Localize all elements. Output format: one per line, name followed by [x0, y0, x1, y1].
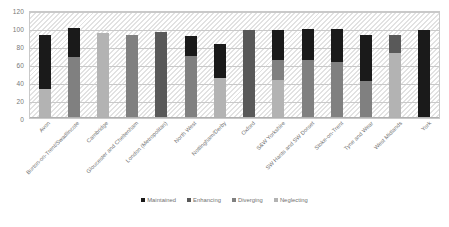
legend-label: Neglecting: [280, 197, 308, 203]
x-axis-label: SW Hants and SW Dorset: [264, 120, 315, 171]
x-axis-label: S&W Yorkshire: [255, 120, 286, 151]
bar-stack: [389, 35, 401, 118]
stacked-bar-chart: 020406080100120 AvonBurton-on-Trent/Swad…: [0, 0, 449, 227]
bar-stack: [39, 35, 51, 118]
bar-segment-maintained: [360, 35, 372, 81]
bar-column[interactable]: [59, 12, 88, 118]
bar-stack: [126, 35, 138, 118]
legend-label: Maintained: [147, 197, 176, 203]
bar-segment-maintained: [418, 30, 430, 118]
bar-segment-diverging: [272, 60, 284, 81]
bar-segment-maintained: [68, 28, 80, 57]
bar-column[interactable]: [351, 12, 380, 118]
bar-series-group: [30, 12, 439, 118]
bar-column[interactable]: [88, 12, 117, 118]
x-axis-label: North West: [173, 120, 197, 144]
x-axis-label: York: [420, 120, 432, 132]
legend-label: Enhancing: [193, 197, 221, 203]
bar-segment-maintained: [272, 30, 284, 60]
legend-item[interactable]: Maintained: [141, 197, 176, 203]
legend-swatch-icon: [274, 198, 278, 202]
x-axis: AvonBurton-on-Trent/SwadlincoteCambridge…: [29, 120, 440, 182]
chart-legend: MaintainedEnhancingDivergingNeglecting: [0, 197, 449, 203]
bar-segment-diverging: [126, 35, 138, 118]
x-axis-label: Tyne and Wear: [342, 120, 373, 151]
bar-stack: [302, 29, 314, 118]
legend-swatch-icon: [232, 198, 236, 202]
bar-segment-enhancing: [155, 32, 167, 118]
legend-item[interactable]: Diverging: [232, 197, 263, 203]
bar-column[interactable]: [176, 12, 205, 118]
plot-area: [29, 11, 440, 119]
y-axis-tick: 40: [17, 80, 24, 87]
bar-stack: [418, 30, 430, 118]
bar-stack: [243, 30, 255, 118]
bar-segment-maintained: [331, 29, 343, 62]
bar-column[interactable]: [264, 12, 293, 118]
bar-column[interactable]: [293, 12, 322, 118]
bar-stack: [155, 32, 167, 118]
bar-segment-maintained: [302, 29, 314, 61]
bar-stack: [185, 36, 197, 118]
bar-stack: [214, 44, 226, 118]
legend-swatch-icon: [187, 198, 191, 202]
bar-segment-enhancing: [243, 30, 255, 118]
legend-item[interactable]: Neglecting: [274, 197, 308, 203]
y-axis: 020406080100120: [0, 11, 27, 119]
bar-segment-neglecting: [214, 78, 226, 119]
x-axis-label: Gloucester and Cheltenham: [85, 120, 139, 174]
bar-segment-maintained: [39, 35, 51, 89]
bar-segment-neglecting: [97, 33, 109, 119]
x-axis-label: Avon: [38, 120, 51, 133]
bar-segment-diverging: [360, 81, 372, 118]
bar-column[interactable]: [381, 12, 410, 118]
bar-column[interactable]: [30, 12, 59, 118]
y-axis-tick: 60: [17, 62, 24, 69]
bar-segment-maintained: [185, 36, 197, 56]
bar-segment-neglecting: [389, 53, 401, 118]
bar-stack: [272, 30, 284, 118]
bar-stack: [68, 28, 80, 118]
legend-swatch-icon: [141, 198, 145, 202]
bar-stack: [97, 33, 109, 119]
bar-stack: [331, 29, 343, 118]
bar-column[interactable]: [205, 12, 234, 118]
bar-column[interactable]: [322, 12, 351, 118]
y-axis-tick: 0: [20, 116, 24, 123]
axis-baseline: [30, 117, 439, 118]
y-axis-tick: 120: [13, 8, 24, 15]
bar-segment-diverging: [185, 56, 197, 118]
x-axis-label: Stoke-on-Trent: [314, 120, 345, 151]
legend-item[interactable]: Enhancing: [187, 197, 221, 203]
legend-label: Diverging: [238, 197, 263, 203]
y-axis-tick: 80: [17, 44, 24, 51]
y-axis-tick: 100: [13, 26, 24, 33]
bar-segment-maintained: [214, 44, 226, 77]
y-axis-tick: 20: [17, 98, 24, 105]
bar-segment-diverging: [302, 60, 314, 118]
x-axis-label: West Midlands: [373, 120, 404, 151]
bar-column[interactable]: [118, 12, 147, 118]
bar-column[interactable]: [147, 12, 176, 118]
x-axis-label: Burton-on-Trent/Swadlincote: [25, 120, 80, 175]
bar-segment-neglecting: [39, 89, 51, 118]
x-axis-label: Oxford: [240, 120, 256, 136]
bar-segment-diverging: [331, 62, 343, 118]
bar-segment-diverging: [68, 57, 80, 118]
bar-column[interactable]: [410, 12, 439, 118]
x-axis-label: Cambridge: [86, 120, 110, 144]
bar-column[interactable]: [235, 12, 264, 118]
bar-stack: [360, 35, 372, 118]
bar-segment-neglecting: [272, 80, 284, 118]
bar-segment-enhancing: [389, 35, 401, 53]
